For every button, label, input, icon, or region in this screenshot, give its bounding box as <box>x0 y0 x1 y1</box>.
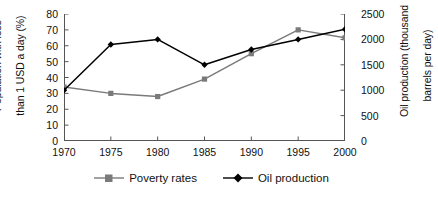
left-axis-title-line1: Population with less <box>0 20 2 111</box>
legend-item-oil-production: Oil production <box>223 172 329 184</box>
right-axis-title-line2: barrels per day) <box>420 30 432 102</box>
left-axis-tick-label: 70 <box>46 24 58 36</box>
left-axis-tick-label: 60 <box>46 40 58 52</box>
x-axis-tick-labels: 1970197519801985199019952000 <box>0 146 423 162</box>
x-axis-tick-label: 1975 <box>99 146 122 158</box>
right-axis-tick-label: 2500 <box>361 8 384 20</box>
x-axis-tick-label: 1980 <box>146 146 169 158</box>
x-axis-tick-label: 2000 <box>333 146 356 158</box>
plot-svg <box>64 14 345 141</box>
left-axis-tick-label: 10 <box>46 119 58 131</box>
left-axis-tick-label: 20 <box>46 103 58 115</box>
left-axis-tick-label: 40 <box>46 72 58 84</box>
diamond-marker-icon <box>223 172 253 184</box>
right-axis-tick-label: 1000 <box>361 84 384 96</box>
left-axis-tick-label: 80 <box>46 8 58 20</box>
left-axis-tick-label: 30 <box>46 87 58 99</box>
x-axis-tick-label: 1990 <box>240 146 263 158</box>
left-axis-tick-label: 50 <box>46 56 58 68</box>
plot-area <box>64 14 345 141</box>
left-axis-title: Population with less than 1 USD a day (%… <box>2 14 15 134</box>
legend-label-oil-production: Oil production <box>258 172 329 184</box>
square-marker-icon <box>94 172 124 184</box>
legend-item-poverty-rates: Poverty rates <box>94 172 197 184</box>
legend-label-poverty-rates: Poverty rates <box>129 172 197 184</box>
right-axis-tick-label: 2000 <box>361 33 384 45</box>
right-axis-title: Oil production (thousand barrels per day… <box>409 14 422 134</box>
chart-legend: Poverty rates Oil production <box>0 168 423 188</box>
x-axis-tick-label: 1970 <box>52 146 75 158</box>
x-axis-tick-label: 1985 <box>193 146 216 158</box>
right-axis-tick-label: 500 <box>361 110 379 122</box>
right-axis-tick-label: 1500 <box>361 59 384 71</box>
left-axis-title-line2: than 1 USD a day (%) <box>13 15 25 115</box>
right-axis-title-line1: Oil production (thousand <box>397 5 409 117</box>
x-axis-tick-label: 1995 <box>286 146 309 158</box>
